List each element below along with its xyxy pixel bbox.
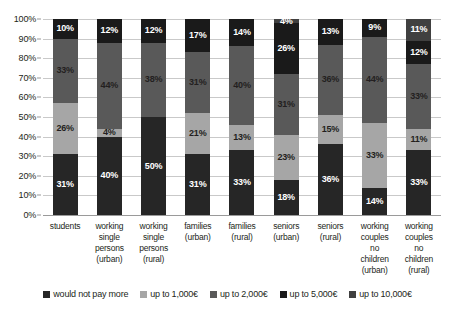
bar-segment-value-label: 33% <box>410 178 427 187</box>
y-axis-tick-label: 100% <box>14 14 36 24</box>
x-axis-category-label: families (rural) <box>220 217 264 283</box>
bar-segment[interactable]: 26% <box>274 23 299 74</box>
bar-group[interactable]: 31%26%33%10% <box>43 19 87 215</box>
bar-segment[interactable]: 11% <box>406 19 431 41</box>
bar-group[interactable]: 33%13%40%14% <box>220 19 264 215</box>
bar-segment-value-label: 44% <box>366 75 383 84</box>
bar-group[interactable]: 14%33%44%9% <box>353 19 397 215</box>
bar-segment[interactable]: 33% <box>362 123 387 188</box>
bar-segment[interactable]: 12% <box>97 19 122 43</box>
gridline <box>43 215 441 216</box>
y-axis-tick-label: 90% <box>19 34 36 44</box>
y-axis-tick-mark <box>37 215 41 216</box>
bar-segment-value-label: 33% <box>366 151 383 160</box>
bar-group[interactable]: 33%11%33%12%11% <box>397 19 441 215</box>
bar-segment[interactable]: 4% <box>97 129 122 137</box>
bar-segment[interactable]: 9% <box>362 19 387 37</box>
bar-segment[interactable]: 12% <box>141 19 166 43</box>
bar-group[interactable]: 50%38%12% <box>131 19 175 215</box>
x-axis-category-label: working couples no children (rural) <box>397 217 441 283</box>
legend-item-label: up to 10,000€ <box>359 289 411 299</box>
bar-segment[interactable]: 14% <box>362 188 387 215</box>
bar-segment-value-label: 33% <box>56 66 73 75</box>
x-axis-category-label: students <box>43 217 87 283</box>
y-axis-tick-mark <box>37 156 41 157</box>
bar-segment[interactable]: 40% <box>97 137 122 215</box>
bar-segment[interactable]: 36% <box>318 144 343 215</box>
bar-segment[interactable]: 11% <box>406 129 431 151</box>
bar-segment-value-label: 33% <box>410 92 427 101</box>
bar-stack: 14%33%44%9% <box>362 19 387 215</box>
bar-segment-value-label: 13% <box>233 133 250 142</box>
bar-segment-value-label: 36% <box>322 75 339 84</box>
bar-segment[interactable]: 13% <box>318 19 343 44</box>
y-axis-tick-mark <box>37 136 41 137</box>
bar-stack: 31%26%33%10% <box>53 19 78 215</box>
bar-segment-value-label: 26% <box>56 124 73 133</box>
bar-segment-value-label: 12% <box>101 26 118 35</box>
y-axis-tick-label: 20% <box>19 171 36 181</box>
bar-segment[interactable]: 44% <box>362 37 387 123</box>
bar-segment[interactable]: 15% <box>318 115 343 144</box>
bar-segment[interactable]: 31% <box>185 154 210 215</box>
bar-segment[interactable]: 23% <box>274 135 299 180</box>
bar-segment[interactable]: 12% <box>406 41 431 65</box>
y-axis-tick-mark <box>37 19 41 20</box>
x-axis-category-label: families (urban) <box>176 217 220 283</box>
bar-segment[interactable]: 40% <box>229 46 254 124</box>
bar-group[interactable]: 36%15%36%13% <box>308 19 352 215</box>
bar-segment[interactable]: 36% <box>318 45 343 116</box>
bar-stack: 40%4%44%12% <box>97 19 122 215</box>
legend-item[interactable]: would not pay more <box>43 289 128 299</box>
bar-segment[interactable]: 31% <box>274 74 299 135</box>
bar-stack: 33%11%33%12%11% <box>406 19 431 215</box>
y-axis-tick-label: 80% <box>19 53 36 63</box>
bar-segment[interactable]: 33% <box>53 39 78 104</box>
bar-segment-value-label: 33% <box>233 178 250 187</box>
bar-segment-value-label: 10% <box>56 24 73 33</box>
bar-segment[interactable]: 50% <box>141 117 166 215</box>
bar-segment-value-label: 23% <box>277 153 294 162</box>
x-axis-category-label: seniors (urban) <box>264 217 308 283</box>
bar-group[interactable]: 18%23%31%26%4% <box>264 19 308 215</box>
bar-segment-value-label: 44% <box>101 81 118 90</box>
bar-segment[interactable]: 18% <box>274 180 299 215</box>
legend-item[interactable]: up to 2,000€ <box>210 289 268 299</box>
bar-segment-value-label: 21% <box>189 129 206 138</box>
bar-group[interactable]: 40%4%44%12% <box>87 19 131 215</box>
legend-item[interactable]: up to 10,000€ <box>349 289 411 299</box>
bar-segment[interactable]: 33% <box>229 150 254 215</box>
bar-segment[interactable]: 10% <box>53 19 78 39</box>
bar-segment[interactable]: 38% <box>141 43 166 117</box>
legend-item-label: would not pay more <box>53 289 128 299</box>
legend-item[interactable]: up to 5,000€ <box>280 289 338 299</box>
legend-item[interactable]: up to 1,000€ <box>140 289 198 299</box>
bar-segment[interactable]: 13% <box>229 125 254 150</box>
bar-segment[interactable]: 17% <box>185 19 210 52</box>
x-axis-category-label: working couples no children (urban) <box>353 217 397 283</box>
bar-segment-value-label: 31% <box>56 180 73 189</box>
bar-segment[interactable]: 31% <box>53 154 78 215</box>
bar-segment-value-label: 40% <box>101 171 118 180</box>
bar-segment[interactable]: 33% <box>406 150 431 215</box>
bar-series-container: 31%26%33%10%40%4%44%12%50%38%12%31%21%31… <box>43 19 441 215</box>
bar-segment[interactable]: 14% <box>229 19 254 46</box>
bar-segment[interactable]: 44% <box>97 43 122 129</box>
bar-segment[interactable]: 26% <box>53 103 78 154</box>
plot-area: 31%26%33%10%40%4%44%12%50%38%12%31%21%31… <box>43 19 441 215</box>
bar-segment[interactable]: 4% <box>274 19 299 23</box>
bar-segment-value-label: 4% <box>280 17 293 26</box>
bar-group[interactable]: 31%21%31%17% <box>176 19 220 215</box>
bar-segment-value-label: 38% <box>145 75 162 84</box>
legend-item-label: up to 5,000€ <box>290 289 338 299</box>
bar-stack: 18%23%31%26%4% <box>274 19 299 215</box>
bar-segment-value-label: 31% <box>277 100 294 109</box>
bar-segment-value-label: 12% <box>410 48 427 57</box>
bar-segment[interactable]: 33% <box>406 64 431 129</box>
legend-swatch-icon <box>43 291 50 298</box>
bar-segment-value-label: 40% <box>233 81 250 90</box>
stacked-bar-chart: 0%10%20%30%40%50%60%70%80%90%100% 31%26%… <box>0 0 455 313</box>
legend-item-label: up to 2,000€ <box>220 289 268 299</box>
bar-segment[interactable]: 21% <box>185 113 210 154</box>
bar-segment[interactable]: 31% <box>185 52 210 113</box>
